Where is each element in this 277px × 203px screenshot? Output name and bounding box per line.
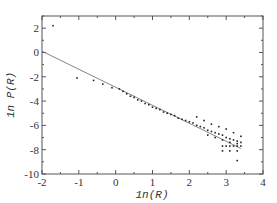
x-axis-label: 1n(R): [135, 189, 168, 201]
svg-text:-4: -4: [30, 95, 40, 107]
svg-text:-10: -10: [24, 168, 39, 180]
svg-text:3: 3: [223, 176, 229, 188]
scatter-chart: -2-101234-10-8-6-4-202 1n(R) 1n P(R): [0, 0, 277, 203]
svg-text:2: 2: [34, 22, 40, 34]
data-points: [52, 25, 241, 162]
svg-text:-8: -8: [30, 144, 40, 156]
fit-line: [42, 51, 241, 148]
svg-text:1: 1: [150, 176, 156, 188]
svg-text:0: 0: [34, 46, 40, 58]
svg-text:4: 4: [260, 176, 266, 188]
svg-text:-2: -2: [30, 71, 39, 83]
svg-text:2: 2: [187, 176, 193, 188]
y-axis-label: 1n P(R): [5, 72, 17, 118]
svg-text:0: 0: [113, 176, 119, 188]
svg-text:-1: -1: [74, 176, 83, 188]
svg-text:-6: -6: [30, 119, 40, 131]
